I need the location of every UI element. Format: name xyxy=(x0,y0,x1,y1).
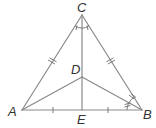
segment-bd xyxy=(82,77,142,110)
geometry-diagram: C D A B E xyxy=(0,0,156,128)
segment-bc xyxy=(82,15,142,110)
segment-ad xyxy=(22,77,82,110)
label-a: A xyxy=(7,104,17,119)
label-d: D xyxy=(71,62,80,77)
label-c: C xyxy=(77,0,87,15)
label-b: B xyxy=(143,107,152,122)
label-e: E xyxy=(77,112,86,127)
